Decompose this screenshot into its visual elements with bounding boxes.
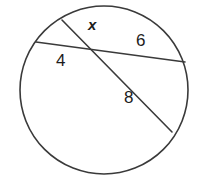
segment-label-eight: 8 bbox=[124, 89, 133, 106]
geometry-diagram-svg bbox=[0, 0, 208, 185]
segment-label-six: 6 bbox=[136, 32, 145, 49]
segment-label-four: 4 bbox=[56, 52, 65, 69]
segment-label-x: x bbox=[88, 17, 96, 32]
chord-diagonal bbox=[62, 20, 172, 132]
circle-chords-figure: x 6 4 8 bbox=[0, 0, 208, 185]
circle-outline bbox=[20, 6, 188, 174]
